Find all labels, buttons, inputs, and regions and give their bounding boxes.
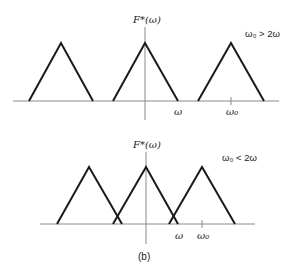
bottom-tick-label-omega: ω [175,231,183,241]
top-spectrum-left [29,43,93,101]
bottom-condition-label: ω₀ < 2ω [222,153,257,163]
bottom-tick-label-omega0: ω₀ [197,231,209,241]
top-spectrum-right [198,43,264,101]
bottom-spectrum-left [57,167,122,224]
figure-caption: (b) [138,252,150,262]
top-panel [13,27,279,120]
bottom-spectrum-right [169,167,235,224]
bottom-panel [40,152,255,244]
top-tick-label-omega0: ω₀ [226,107,238,117]
bottom-y-axis-label: F*(ω) [133,140,161,150]
spectrum-diagram [0,0,294,269]
top-condition-label: ω₀ > 2ω [245,29,280,39]
top-y-axis-label: F*(ω) [133,15,161,25]
top-tick-label-omega: ω [174,107,182,117]
